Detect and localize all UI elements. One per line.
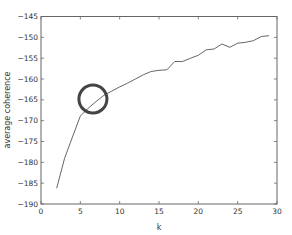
y-tick-label: −190 — [17, 200, 38, 209]
x-tick-label: 5 — [78, 207, 83, 216]
x-tick-label: 15 — [154, 207, 164, 216]
y-tick-label: −155 — [17, 54, 38, 63]
y-tick-label: −175 — [17, 137, 38, 146]
y-axis-label: average coherence — [3, 71, 12, 148]
line-chart: −145−150−155−160−165−170−175−180−185−190… — [0, 0, 292, 235]
x-axis-label: k — [157, 223, 162, 232]
x-tick-label: 0 — [39, 207, 44, 216]
y-tick-label: −165 — [17, 95, 38, 104]
plot-frame — [41, 17, 277, 205]
x-tick-label: 10 — [115, 207, 125, 216]
y-tick-label: −180 — [17, 158, 38, 167]
x-tick-label: 25 — [233, 207, 243, 216]
x-tick-label: 30 — [272, 207, 282, 216]
y-tick-label: −170 — [17, 116, 38, 125]
y-tick-label: −145 — [17, 12, 38, 21]
y-tick-label: −150 — [17, 33, 38, 42]
y-tick-label: −185 — [17, 179, 38, 188]
y-tick-label: −160 — [17, 75, 38, 84]
x-tick-label: 20 — [194, 207, 204, 216]
